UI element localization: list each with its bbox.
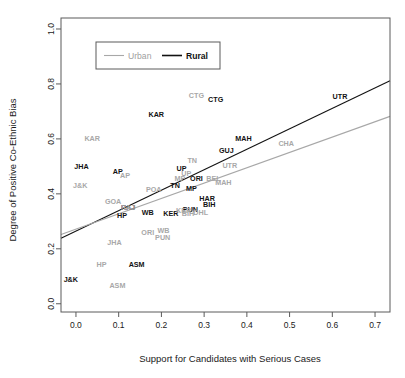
data-point-label: KAR <box>84 134 100 143</box>
data-point-label: JHA <box>74 162 88 171</box>
data-point-label: MP <box>186 184 197 193</box>
data-point-label: WB <box>142 208 154 217</box>
data-point-label: RAJ <box>121 203 135 212</box>
data-point-label: AP <box>120 171 130 180</box>
x-tick-label: 0.3 <box>198 320 210 330</box>
x-tick-label: 0.5 <box>284 320 296 330</box>
x-tick-label: 0.6 <box>326 320 338 330</box>
data-point-label: ORI <box>190 174 203 183</box>
y-tick-label: 1.0 <box>46 23 56 35</box>
data-point-label: CHA <box>278 139 294 148</box>
data-point-label: GOA <box>105 197 121 206</box>
y-tick-label: 0.0 <box>46 298 56 310</box>
x-tick-label: 0.0 <box>70 320 82 330</box>
scatter-plot: UTRCTGKARMAHGUJJHAUPAPORITNMPHARBIHRAJPU… <box>0 0 405 378</box>
legend-label-urban: Urban <box>128 51 152 61</box>
x-axis-title: Support for Candidates with Serious Case… <box>139 353 321 364</box>
data-point-label: JHA <box>107 238 121 247</box>
data-point-label: MP <box>174 174 185 183</box>
legend-label-rural: Rural <box>186 51 208 61</box>
data-point-label: ASM <box>129 260 145 269</box>
data-point-label: BIH <box>182 209 194 218</box>
data-point-label: CTG <box>208 95 224 104</box>
data-point-label: MAH <box>235 134 251 143</box>
x-tick-label: 0.4 <box>241 320 253 330</box>
data-point-label: POA <box>146 185 162 194</box>
chart-legend: UrbanRural <box>96 42 220 69</box>
x-tick-label: 0.7 <box>369 320 381 330</box>
y-axis-title: Degree of Positive Co-Ethnic Bias <box>7 98 18 241</box>
data-point-label: ASM <box>109 281 125 290</box>
data-point-label: KAR <box>148 110 164 119</box>
data-point-label: CTG <box>189 91 205 100</box>
data-point-label: J&K <box>64 275 79 284</box>
data-point-label: GUJ <box>219 146 234 155</box>
chart-figure: UTRCTGKARMAHGUJJHAUPAPORITNMPHARBIHRAJPU… <box>0 0 405 378</box>
data-point-label: MAH <box>215 178 231 187</box>
x-tick-label: 0.2 <box>155 320 167 330</box>
data-point-label: PUN <box>155 233 170 242</box>
data-point-label: DHL <box>193 208 208 217</box>
data-point-label: ORI <box>141 228 154 237</box>
y-tick-label: 0.6 <box>46 133 56 145</box>
data-point-label: HP <box>117 211 127 220</box>
y-tick-label: 0.8 <box>46 78 56 90</box>
data-point-label: HP <box>97 260 107 269</box>
data-point-label: UTR <box>222 161 238 170</box>
data-point-label: UTR <box>333 92 349 101</box>
data-point-label: J&K <box>73 181 88 190</box>
y-tick-label: 0.2 <box>46 243 56 255</box>
y-tick-label: 0.4 <box>46 188 56 200</box>
data-point-label: TN <box>187 156 197 165</box>
x-tick-label: 0.1 <box>113 320 125 330</box>
